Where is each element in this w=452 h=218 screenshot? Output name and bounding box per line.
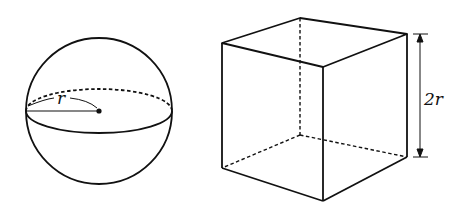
edge-length-label: 2r (423, 89, 444, 109)
arrow-down-icon (417, 149, 423, 157)
cube (222, 18, 407, 201)
radius-label: r (57, 88, 66, 108)
arrow-up-icon (417, 34, 423, 42)
cube-top-face (222, 18, 407, 67)
figure: r 2r (0, 0, 452, 218)
equator-front (26, 111, 172, 133)
sphere-center-dot (96, 108, 101, 113)
cube-hidden-edges (222, 18, 407, 168)
equator-back-dashed (26, 89, 172, 111)
radius-brace-left (28, 98, 54, 106)
radius-brace-right (70, 98, 97, 108)
